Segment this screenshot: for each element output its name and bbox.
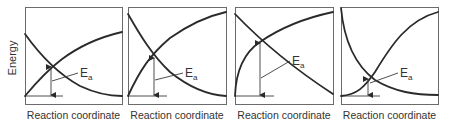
ea-label-subscript: a — [88, 73, 93, 82]
diagram-canvas: Energy EaReaction coordinateEaReaction c… — [0, 0, 449, 126]
panel-frame — [342, 8, 439, 105]
falling-energy-curve — [341, 8, 438, 95]
ea-label-subscript: a — [408, 73, 413, 82]
panels-group: EaReaction coordinateEaReaction coordina… — [25, 8, 439, 122]
panel-frame — [236, 8, 334, 105]
x-axis-label: Reaction coordinate — [130, 109, 224, 121]
x-axis-label: Reaction coordinate — [237, 109, 331, 121]
rising-energy-curve — [128, 12, 226, 96]
x-axis-label: Reaction coordinate — [343, 109, 437, 121]
ea-label-subscript: a — [300, 61, 305, 70]
falling-energy-curve — [25, 34, 122, 96]
ea-label: Ea — [80, 66, 93, 82]
x-axis-label: Reaction coordinate — [27, 109, 121, 121]
ea-label: Ea — [292, 54, 305, 70]
ea-label: Ea — [400, 66, 413, 82]
falling-energy-curve — [128, 14, 226, 96]
rising-energy-curve — [25, 32, 122, 96]
ea-label-subscript: a — [193, 73, 198, 82]
panel-2: EaReaction coordinate — [128, 8, 227, 122]
panel-frame — [129, 8, 227, 105]
panel-4: EaReaction coordinate — [341, 8, 439, 122]
ea-leader-line — [52, 73, 78, 81]
energy-diagram-figure: Energy EaReaction coordinateEaReaction c… — [0, 0, 449, 126]
falling-energy-curve — [235, 14, 333, 94]
ea-leader-line — [261, 61, 290, 78]
rising-energy-curve — [341, 12, 438, 96]
ea-label: Ea — [185, 66, 198, 82]
panel-frame — [26, 8, 123, 105]
y-axis-label: Energy — [6, 40, 18, 75]
panel-3: EaReaction coordinate — [235, 8, 334, 122]
panel-1: EaReaction coordinate — [25, 8, 123, 122]
